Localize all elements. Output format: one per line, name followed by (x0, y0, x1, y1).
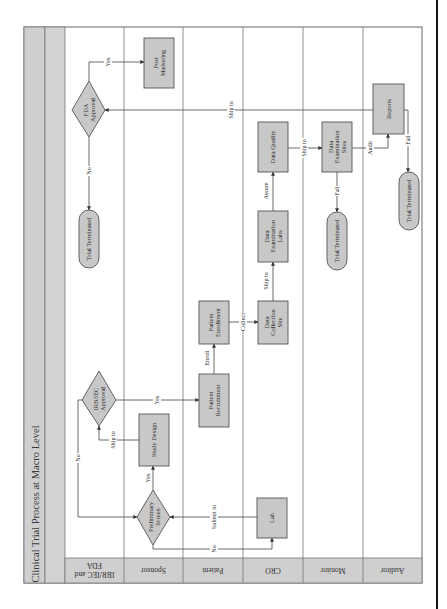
edge-label-assure: Assure (262, 182, 269, 199)
svg-text:IRB/IEC: IRB/IEC (92, 388, 99, 411)
svg-text:Enrollment: Enrollment (214, 308, 221, 337)
lane-label-auditor: Auditor (380, 566, 404, 575)
svg-text:Reports: Reports (385, 99, 392, 119)
svg-text:Recruitment: Recruitment (214, 384, 221, 416)
diagram-page: Clinical Trial Process at Macro Level IB… (0, 0, 447, 609)
svg-text:Screen: Screen (154, 508, 161, 526)
svg-text:Lab: Lab (268, 513, 275, 523)
svg-text:Trial Terminated: Trial Terminated (405, 179, 412, 222)
svg-text:Marketing: Marketing (159, 49, 166, 76)
node-data-examination-sites[interactable]: Data Examination Sites (322, 122, 352, 172)
edge-label-fda-yes: Yes (104, 57, 111, 67)
svg-text:Preliminary: Preliminary (147, 501, 154, 532)
svg-text:FDA: FDA (82, 103, 89, 116)
lane-label-cro: CRO (265, 566, 281, 575)
svg-text:Trial Terminated: Trial Terminated (333, 219, 340, 262)
node-trial-terminated-auditor[interactable]: Trial Terminated (399, 172, 419, 230)
node-lab[interactable]: Lab (257, 498, 287, 538)
edge-label-collect: Collect (239, 313, 246, 331)
svg-text:Approval: Approval (99, 387, 106, 411)
edge-label-fda-no: No (85, 167, 92, 175)
svg-text:Labs: Labs (276, 230, 283, 243)
svg-text:Patient: Patient (207, 391, 214, 409)
node-study-design[interactable]: Study Design (139, 414, 169, 466)
node-patient-recruitment[interactable]: Patient Recruitment (199, 374, 229, 427)
svg-text:Data Quality: Data Quality (269, 130, 276, 164)
edge-label-lab-submit: Submit to (210, 505, 217, 529)
edge-label-prelim-no: No (210, 545, 217, 553)
lane-label-sponsor: Sponsor (141, 566, 166, 575)
swimlane-diagram: Clinical Trial Process at Macro Level IB… (0, 0, 447, 609)
svg-text:Study Design: Study Design (150, 422, 157, 457)
svg-text:Approval: Approval (89, 98, 96, 122)
node-patient-enrollment[interactable]: Patient Enrollment (199, 301, 229, 344)
edge-label-irb-yes: Yes (153, 395, 160, 405)
node-reports[interactable]: Reports (373, 84, 404, 134)
edge-label-enroll: Enroll (203, 350, 210, 366)
node-post-marketing[interactable]: Post Marketing (144, 38, 174, 88)
svg-text:Patient: Patient (207, 313, 214, 331)
edge-label-prelim-yes: Yes (144, 473, 151, 483)
svg-text:Post: Post (152, 57, 159, 68)
edge-label-reports-fail: Fail (404, 135, 411, 145)
edge-label-audit: Audit (366, 141, 373, 155)
edge-label-reports-ship-to: Ship to (227, 101, 234, 119)
svg-text:FDA: FDA (86, 561, 102, 570)
spacer-column (45, 27, 65, 583)
svg-text:Sites: Sites (340, 140, 347, 153)
lane-label-monitor: Monitor (320, 566, 345, 575)
diagram-title: Clinical Trial Process at Macro Level (30, 425, 41, 582)
page-edge-rule (436, 0, 438, 609)
edge-label-irb-no: No (74, 454, 81, 462)
edge-label-study-ship-to: Ship to (109, 431, 116, 449)
edge-label-dcs-ship-to: Ship to (262, 272, 269, 290)
svg-text:Trial Terminated: Trial Terminated (85, 217, 92, 260)
edge-label-dq-ship-to: Ship to (300, 139, 307, 157)
svg-text:Site: Site (276, 317, 283, 327)
node-trial-terminated-monitor[interactable]: Trial Terminated (327, 212, 347, 270)
node-trial-terminated-fda[interactable]: Trial Terminated (79, 210, 99, 268)
lane-label-band (65, 558, 422, 583)
node-data-examination-labs[interactable]: Data Examination Labs (258, 211, 288, 262)
node-data-collection-site[interactable]: Data Collection Site (258, 301, 288, 344)
edge-label-des-fail: Fail (333, 186, 340, 196)
lane-label-patient: Patient (202, 566, 224, 575)
node-data-quality[interactable]: Data Quality (258, 122, 288, 172)
